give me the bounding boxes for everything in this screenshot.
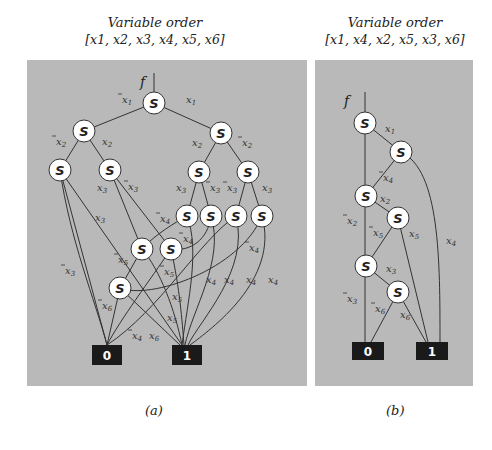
decision-node: S xyxy=(200,205,222,227)
terminal-1: 1 xyxy=(172,345,202,365)
decision-node: S xyxy=(188,161,210,183)
decision-node: S xyxy=(355,185,377,207)
svg-text:S: S xyxy=(243,165,252,180)
svg-text:S: S xyxy=(360,116,369,131)
terminal-0: 0 xyxy=(92,345,122,365)
svg-text:1: 1 xyxy=(428,345,436,359)
svg-text:S: S xyxy=(393,285,402,300)
decision-node: S xyxy=(390,141,412,163)
svg-text:0: 0 xyxy=(103,349,111,363)
decision-node: S xyxy=(355,255,377,277)
decision-node: S xyxy=(109,277,131,299)
svg-text:S: S xyxy=(137,242,146,257)
decision-node: S xyxy=(49,159,71,181)
decision-node: S xyxy=(99,159,121,181)
decision-node: S xyxy=(73,120,95,142)
svg-text:S: S xyxy=(194,165,203,180)
decision-node: S xyxy=(354,112,376,134)
decision-node: S xyxy=(387,207,409,229)
svg-text:1: 1 xyxy=(183,349,191,363)
svg-text:S: S xyxy=(361,259,370,274)
svg-text:S: S xyxy=(149,96,158,111)
decision-node: S xyxy=(225,205,247,227)
decision-node: S xyxy=(131,238,153,260)
svg-text:S: S xyxy=(182,209,191,224)
decision-node: S xyxy=(251,205,273,227)
terminal-1: 1 xyxy=(416,342,448,360)
panel-a: fx1x1x2x2x2x2x3x3x3x3x3x3x3x4x4x4x3x5x5x… xyxy=(27,60,307,386)
decision-node: S xyxy=(176,205,198,227)
svg-text:S: S xyxy=(361,189,370,204)
decision-node: S xyxy=(160,238,182,260)
svg-text:S: S xyxy=(231,209,240,224)
svg-text:S: S xyxy=(55,163,64,178)
svg-text:S: S xyxy=(166,242,175,257)
svg-text:S: S xyxy=(393,211,402,226)
svg-text:S: S xyxy=(396,145,405,160)
decision-node: S xyxy=(387,281,409,303)
svg-text:S: S xyxy=(115,281,124,296)
svg-text:S: S xyxy=(257,209,266,224)
bdd-diagram: fx1x1x2x2x2x2x3x3x3x3x3x3x3x4x4x4x3x5x5x… xyxy=(0,0,492,450)
panel-b-caption: (b) xyxy=(386,403,404,418)
svg-text:S: S xyxy=(79,124,88,139)
svg-text:0: 0 xyxy=(364,345,372,359)
decision-node: S xyxy=(143,92,165,114)
decision-node: S xyxy=(237,161,259,183)
svg-text:S: S xyxy=(105,163,114,178)
svg-text:S: S xyxy=(216,126,225,141)
panel-b: fx1x4x2x2x5x5x4x3x3x6x6SSSSSS01 xyxy=(315,60,473,386)
panel-a-caption: (a) xyxy=(145,403,163,418)
svg-text:S: S xyxy=(206,209,215,224)
decision-node: S xyxy=(210,122,232,144)
terminal-0: 0 xyxy=(352,342,384,360)
